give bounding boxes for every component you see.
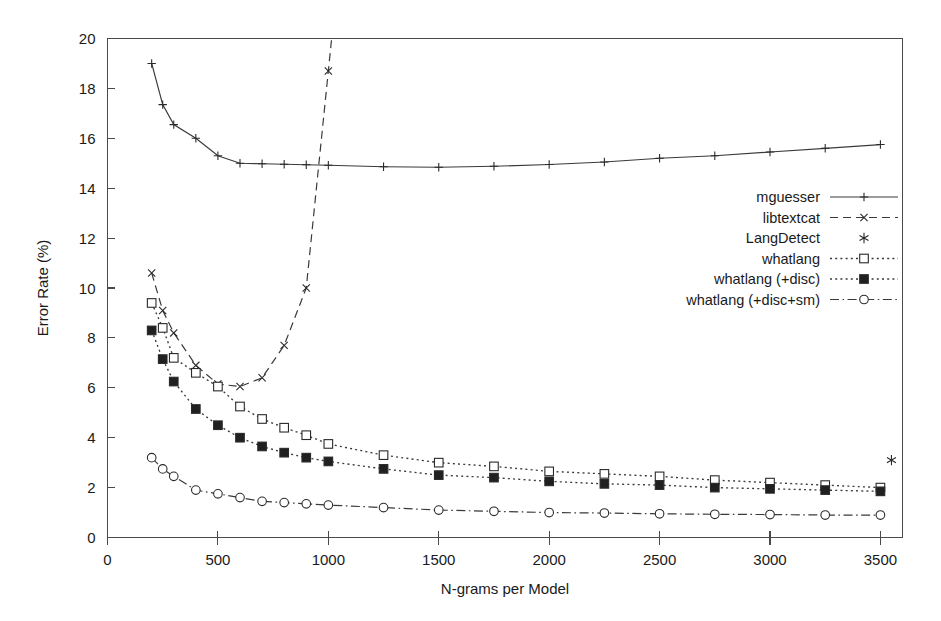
plus-marker — [170, 120, 178, 128]
x-tick-label: 2500 — [643, 551, 676, 568]
filled-square-marker — [490, 473, 499, 482]
open-square-marker — [158, 324, 167, 333]
open-circle-marker — [280, 498, 289, 507]
filled-square-marker — [169, 377, 178, 386]
plus-marker — [766, 148, 774, 156]
filled-square-marker — [379, 465, 388, 474]
filled-square-marker — [710, 483, 719, 492]
open-square-marker — [545, 467, 554, 476]
filled-square-marker — [876, 487, 885, 496]
y-tick-label: 10 — [79, 280, 96, 297]
open-square-marker — [434, 458, 443, 467]
series-langdetect — [887, 455, 896, 465]
plus-marker — [711, 152, 719, 160]
x-tick-label: 1000 — [312, 551, 345, 568]
plus-marker — [655, 154, 663, 162]
y-tick-label: 0 — [87, 529, 95, 546]
x-axis-title: N-grams per Model — [441, 580, 569, 597]
open-square-marker — [324, 440, 333, 449]
open-circle-marker — [147, 453, 156, 462]
plus-marker — [876, 140, 884, 148]
plus-marker — [600, 158, 608, 166]
plus-marker — [490, 162, 498, 170]
x-tick-label: 3000 — [753, 551, 786, 568]
plus-marker — [147, 59, 155, 67]
x-tick-label: 0 — [103, 551, 111, 568]
y-tick-label: 14 — [79, 180, 96, 197]
series-whatlang-disc- — [147, 326, 884, 496]
plus-marker — [860, 193, 868, 201]
plus-marker — [545, 160, 553, 168]
open-square-marker — [192, 369, 201, 378]
x-tick-label: 500 — [205, 551, 230, 568]
open-circle-marker — [600, 509, 609, 518]
open-circle-marker — [545, 508, 554, 517]
legend-label: LangDetect — [746, 230, 820, 246]
x-tick-label: 2000 — [532, 551, 565, 568]
y-tick-label: 6 — [87, 379, 95, 396]
filled-square-marker — [147, 326, 156, 335]
open-circle-marker — [169, 472, 178, 481]
open-circle-marker — [710, 510, 719, 519]
series-line — [152, 0, 339, 387]
filled-square-marker — [236, 433, 245, 442]
open-circle-marker — [158, 465, 167, 474]
open-square-marker — [280, 423, 289, 432]
y-tick-label: 12 — [79, 230, 96, 247]
filled-square-marker — [280, 448, 289, 457]
legend-label: libtextcat — [763, 210, 820, 226]
filled-square-marker — [860, 275, 869, 284]
plus-marker — [258, 160, 266, 168]
filled-square-marker — [192, 405, 201, 414]
filled-square-marker — [324, 457, 333, 466]
chart-container: 02468101214161820 0500100015002000250030… — [0, 0, 941, 621]
open-circle-marker — [655, 509, 664, 518]
plus-marker — [280, 160, 288, 168]
legend-label: whatlang (+disc) — [713, 271, 820, 287]
legend-label: whatlang (+disc+sm) — [685, 292, 820, 308]
asterisk-marker — [859, 233, 868, 243]
open-square-marker — [655, 472, 664, 481]
open-circle-marker — [236, 493, 245, 502]
filled-square-marker — [766, 485, 775, 494]
filled-square-marker — [258, 442, 267, 451]
filled-square-marker — [158, 355, 167, 364]
plot-frame — [108, 39, 903, 538]
open-circle-marker — [766, 510, 775, 519]
open-square-marker — [379, 451, 388, 460]
series-line — [152, 303, 881, 488]
legend-label: whatlang — [761, 251, 820, 267]
open-square-marker — [214, 382, 223, 391]
x-tick-label: 3500 — [864, 551, 897, 568]
plus-marker — [159, 100, 167, 108]
legend-label: mguesser — [756, 189, 820, 205]
open-circle-marker — [876, 511, 885, 520]
open-circle-marker — [379, 503, 388, 512]
open-circle-marker — [821, 511, 830, 520]
open-circle-marker — [324, 501, 333, 510]
cross-marker — [281, 342, 288, 349]
open-square-marker — [236, 402, 245, 411]
legend: mguesserlibtextcatLangDetectwhatlangwhat… — [685, 189, 898, 308]
plus-marker — [236, 159, 244, 167]
plot-area-border — [108, 39, 903, 538]
asterisk-marker — [887, 455, 896, 465]
open-circle-marker — [192, 486, 201, 495]
plus-marker — [302, 161, 310, 169]
y-tick-label: 16 — [79, 130, 96, 147]
cross-marker — [170, 329, 177, 336]
open-square-marker — [147, 299, 156, 308]
filled-square-marker — [434, 471, 443, 480]
y-axis-title: Error Rate (%) — [34, 240, 51, 337]
error-rate-line-chart: 02468101214161820 0500100015002000250030… — [0, 0, 941, 621]
series-whatlang — [147, 299, 884, 492]
open-square-marker — [860, 254, 869, 263]
x-axis-ticks: 0500100015002000250030003500 — [103, 531, 897, 568]
y-tick-label: 20 — [79, 30, 96, 47]
axis-titles: N-grams per ModelError Rate (%) — [34, 240, 569, 597]
series-mguesser — [147, 59, 884, 171]
cross-marker — [192, 362, 199, 369]
plus-marker — [324, 161, 332, 169]
filled-square-marker — [302, 453, 311, 462]
open-square-marker — [490, 462, 499, 471]
